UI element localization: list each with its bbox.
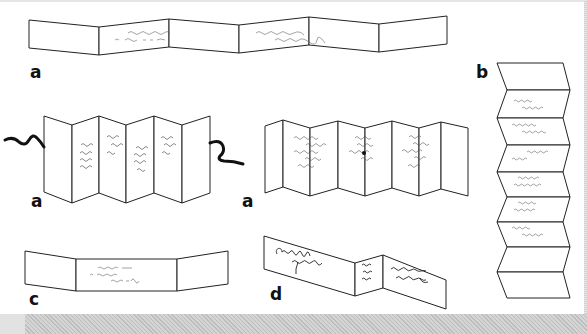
label-a-middle-left: a [31, 193, 42, 210]
accordion-b [497, 63, 570, 298]
accordion-a2 [5, 116, 243, 203]
bottom-bar-left-cap [0, 314, 25, 334]
label-b: b [476, 64, 488, 81]
label-a-top: a [30, 64, 41, 81]
figure-canvas [0, 0, 587, 334]
folder-d [264, 236, 446, 309]
folder-c [25, 251, 228, 291]
label-d: d [270, 286, 282, 303]
accordion-a3 [265, 120, 468, 196]
bottom-bar [0, 314, 587, 334]
cord-left [5, 136, 44, 147]
label-c: c [29, 291, 39, 308]
strip-a1 [29, 16, 447, 55]
label-a-middle-right: a [242, 193, 253, 210]
cord-right [210, 142, 243, 164]
